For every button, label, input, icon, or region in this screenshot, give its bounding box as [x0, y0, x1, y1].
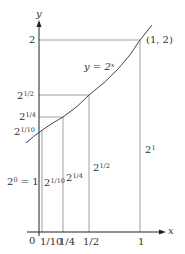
y-axis-label: y — [36, 9, 42, 19]
segment-label-2-half: 21/2 — [93, 163, 110, 173]
point-label: (1, 2) — [146, 35, 173, 45]
y-tick-2-half: 21/2 — [17, 91, 34, 101]
y-axis-arrow-icon — [37, 20, 42, 27]
origin-label: 0 — [29, 236, 35, 246]
y-tick-2: 2 — [29, 35, 35, 45]
segment-label-2-quarter: 21/4 — [66, 173, 83, 183]
x-tick-half: 1/2 — [83, 237, 99, 247]
y-tick-2-quarter: 21/4 — [19, 112, 36, 122]
x-tick-quarter: 1/4 — [59, 237, 75, 247]
x-axis-label: x — [168, 226, 174, 236]
segment-label-2-tenth: 21/10 — [44, 178, 65, 188]
y-tick-2-tenth: 21/10 — [14, 127, 35, 137]
curve-label: y = 2x — [84, 62, 114, 72]
segment-label-2-1: 21 — [145, 145, 156, 155]
x-tick-1: 1 — [138, 237, 144, 247]
x-axis-arrow-icon — [159, 230, 166, 235]
segment-label-2-0: 20 = 1 — [7, 177, 39, 187]
